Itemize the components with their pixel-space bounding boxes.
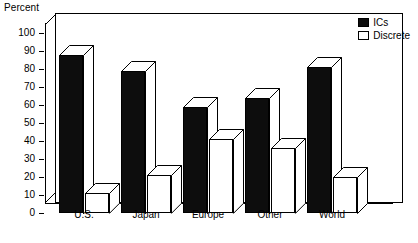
bar-front-face [307, 67, 331, 213]
y-tick-label-60: 60 [11, 100, 35, 110]
bar-top-face [271, 138, 295, 148]
bar-front-face [121, 71, 145, 213]
bar-front-face [147, 175, 171, 213]
bar-top-face [121, 61, 145, 71]
bar-side-face [357, 167, 367, 213]
chart-legend: ICs Discrete [358, 16, 410, 42]
bar-chart: Percent 1009080706050403020100 U.S.Japan… [0, 0, 418, 243]
y-tick-40 [39, 141, 44, 142]
y-tick-80 [39, 69, 44, 70]
y-tick-label-30: 30 [11, 154, 35, 164]
y-tick-10 [39, 195, 44, 196]
bar-top-face [147, 165, 171, 175]
legend-item-discrete: Discrete [358, 29, 410, 42]
y-axis-title: Percent [4, 2, 39, 13]
y-tick-50 [39, 123, 44, 124]
bar-front-face [271, 148, 295, 213]
bar-japan-discrete [147, 175, 171, 213]
y-tick-label-90: 90 [11, 46, 35, 56]
y-tick-label-40: 40 [11, 136, 35, 146]
bar-top-face [59, 45, 83, 55]
bar-world-discrete [333, 177, 357, 213]
legend-swatch-ics [358, 18, 369, 27]
bar-japan-ics [121, 71, 145, 213]
y-tick-30 [39, 159, 44, 160]
y-tick-label-70: 70 [11, 82, 35, 92]
x-axis-label-us: U.S. [51, 209, 117, 220]
legend-item-ics: ICs [358, 16, 410, 29]
bar-front-face [59, 55, 83, 213]
bar-front-face [183, 107, 207, 213]
bar-front-face [245, 98, 269, 213]
bar-us-ics [59, 55, 83, 213]
bar-world-ics [307, 67, 331, 213]
x-axis-label-europe: Europe [175, 209, 241, 220]
bar-europe-discrete [209, 139, 233, 213]
bar-other-discrete [271, 148, 295, 213]
plot-top-diagonal [45, 13, 56, 24]
y-axis-line [45, 23, 46, 204]
y-tick-label-0: 0 [11, 208, 35, 218]
y-tick-0 [39, 213, 44, 214]
bar-front-face [333, 177, 357, 213]
legend-label-discrete: Discrete [373, 29, 410, 42]
y-tick-label-20: 20 [11, 172, 35, 182]
x-axis-label-japan: Japan [113, 209, 179, 220]
legend-label-ics: ICs [373, 16, 388, 29]
y-tick-60 [39, 105, 44, 106]
bar-europe-ics [183, 107, 207, 213]
bar-front-face [209, 139, 233, 213]
plot-area: 1009080706050403020100 U.S.JapanEuropeOt… [45, 13, 403, 213]
bar-top-face [85, 183, 109, 193]
y-tick-label-10: 10 [11, 190, 35, 200]
y-tick-100 [39, 33, 44, 34]
legend-swatch-discrete [358, 31, 369, 40]
y-tick-90 [39, 51, 44, 52]
bar-side-face [171, 165, 181, 213]
bar-top-face [307, 57, 331, 67]
y-tick-label-100: 100 [11, 28, 35, 38]
y-tick-label-80: 80 [11, 64, 35, 74]
y-tick-20 [39, 177, 44, 178]
x-axis-label-world: World [299, 209, 365, 220]
bar-top-face [209, 129, 233, 139]
bar-top-face [333, 167, 357, 177]
bar-side-face [295, 138, 305, 213]
bar-top-face [183, 97, 207, 107]
x-axis-label-other: Other [237, 209, 303, 220]
bar-other-ics [245, 98, 269, 213]
bar-side-face [233, 129, 243, 213]
y-tick-label-50: 50 [11, 118, 35, 128]
bar-top-face [245, 88, 269, 98]
y-tick-70 [39, 87, 44, 88]
